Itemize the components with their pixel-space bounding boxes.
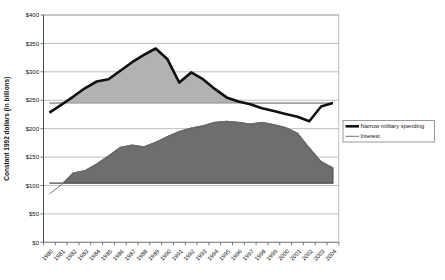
area-interest	[49, 121, 333, 183]
x-tick-label: 1991	[171, 248, 184, 261]
x-tick-label: 1989	[147, 248, 160, 261]
x-tick-label: 1980	[41, 248, 54, 261]
x-tick-label: 2003	[312, 248, 325, 261]
x-tick-label: 2002	[301, 248, 314, 261]
x-tick-label: 2004	[324, 248, 338, 262]
x-tick-label: 1987	[123, 248, 136, 261]
x-tick-label: 1982	[64, 248, 77, 261]
x-tick-label: 1983	[76, 248, 89, 261]
y-tick-label: $400	[26, 12, 40, 18]
y-tick-label: $150	[26, 154, 40, 160]
x-tick-label: 1992	[182, 248, 195, 261]
x-tick-label: 1996	[230, 248, 243, 261]
x-tick-label: 1997	[242, 248, 255, 261]
y-tick-label: $200	[26, 126, 40, 132]
y-tick-label: $100	[26, 183, 40, 189]
y-axis-title: Constant 1992 dollars (in billions)	[4, 77, 12, 181]
y-tick-label: $250	[26, 97, 40, 103]
y-tick-label: $350	[26, 41, 40, 47]
x-tick-label: 1985	[100, 248, 113, 261]
x-tick-label: 1998	[253, 248, 266, 261]
y-tick-label: $300	[26, 69, 40, 75]
x-tick-label: 1988	[135, 248, 148, 261]
area-narrow-military-spending	[49, 49, 333, 104]
x-tick-label: 1995	[218, 248, 231, 261]
x-tick-label: 2000	[277, 248, 290, 261]
y-tick-label: $50	[29, 211, 40, 217]
x-tick-label: 2001	[289, 248, 302, 261]
x-tick-label: 1999	[265, 248, 278, 261]
legend-label-interest: Interest	[361, 133, 381, 139]
x-tick-label: 1984	[88, 248, 102, 262]
military-spending-chart: $0$50$100$150$200$250$300$350$4001980198…	[0, 0, 445, 280]
x-tick-label: 1993	[194, 248, 207, 261]
chart-page: $0$50$100$150$200$250$300$350$4001980198…	[0, 0, 445, 280]
y-tick-label: $0	[32, 240, 39, 246]
x-tick-label: 1981	[53, 248, 66, 261]
x-tick-label: 1986	[112, 248, 125, 261]
x-tick-label: 1990	[159, 248, 172, 261]
x-tick-label: 1994	[206, 248, 220, 262]
legend-label-narrow-military-spending: Narrow military spending	[361, 123, 425, 129]
